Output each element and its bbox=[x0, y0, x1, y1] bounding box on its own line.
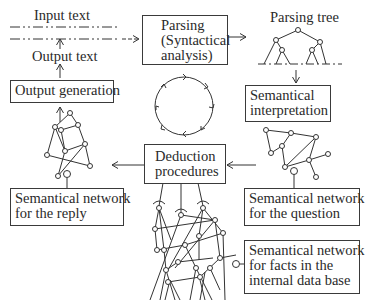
cycle-arrows-icon bbox=[155, 74, 214, 137]
semantical-interpretation-box: Semantical interpretation bbox=[245, 85, 331, 122]
deduction-procedures-box: Deduction procedures bbox=[144, 144, 226, 184]
question-network-box: Semantical network for the question bbox=[244, 188, 360, 226]
question-network-icon bbox=[264, 128, 331, 189]
parsing-tree-label: Parsing tree bbox=[270, 10, 339, 25]
facts-network-icon bbox=[150, 183, 245, 300]
parsing-tree-icon bbox=[258, 28, 342, 65]
parsing-box: Parsing (Syntactical analysis) bbox=[142, 15, 228, 65]
output-generation-box: Output generation bbox=[10, 80, 114, 103]
output-text-label: Output text bbox=[32, 49, 98, 64]
reply-network-box: Semantical network for the reply bbox=[10, 188, 124, 226]
input-text-label: Input text bbox=[34, 8, 90, 23]
input-text-line bbox=[10, 27, 118, 39]
reply-network-icon bbox=[45, 107, 93, 188]
facts-network-box: Semantical network for facts in the inte… bbox=[244, 240, 360, 294]
